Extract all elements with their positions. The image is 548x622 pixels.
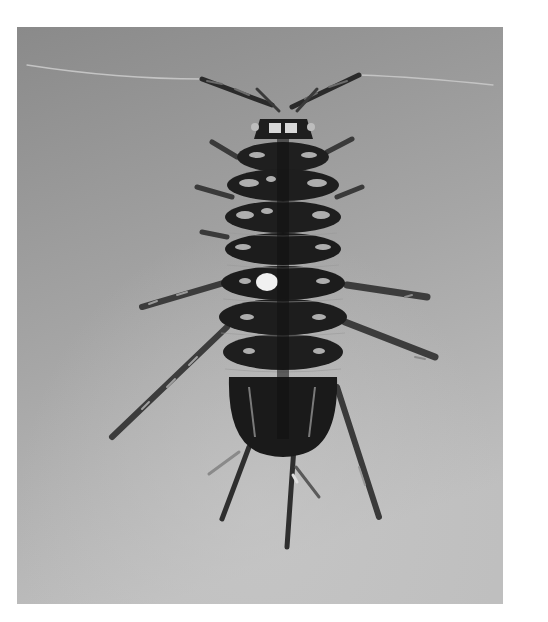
photograph: isopod bbox=[17, 27, 503, 604]
isopod-photo bbox=[17, 27, 503, 604]
